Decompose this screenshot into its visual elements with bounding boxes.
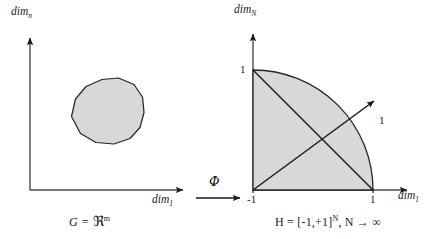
right-x-axis-label-sub: 1 [415,195,419,204]
mapping-operator-label: Φ [209,175,220,188]
right-y-axis-label: dimN [234,4,256,18]
tick-label-x-one: 1 [370,194,376,205]
left-caption-exponent: m [104,214,110,223]
left-x-axis-label-text: dim [152,193,169,205]
right-y-axis-label-sub: N [251,9,256,18]
right-y-axis-label-text: dim [234,3,251,15]
left-panel-caption: G = ℜm [69,215,110,229]
right-caption-prefix: H = [-1,+1] [275,215,332,229]
right-x-axis-label-text: dim [398,189,415,201]
right-caption-suffix: , N → ∞ [338,215,381,229]
left-y-axis-label: dimn [11,6,32,20]
real-numbers-symbol: ℜ [93,213,104,229]
blob-shape [72,78,145,144]
figure-canvas: dimn dim1 G = ℜm Φ dimN dim1 1 -1 1 1 H … [0,0,439,239]
left-y-axis-label-text: dim [11,5,28,17]
right-x-axis-label: dim1 [398,190,419,204]
blob-region [72,78,145,144]
tick-label-y-one: 1 [240,64,246,75]
left-x-axis-label-sub: 1 [169,199,173,208]
tick-label-x-minus-one: -1 [247,194,256,205]
left-y-axis-label-sub: n [28,11,32,20]
left-caption-prefix: G = [69,215,93,229]
quarter-disc-region [253,70,374,190]
left-x-axis-label: dim1 [152,194,173,208]
diagonal-unit-label: 1 [379,115,385,126]
right-panel-caption: H = [-1,+1]N, N → ∞ [275,215,381,228]
